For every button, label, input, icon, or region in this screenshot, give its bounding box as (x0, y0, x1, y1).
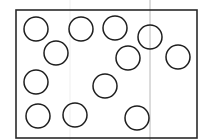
circle-12 (125, 106, 149, 130)
guide-lines (70, 0, 150, 140)
circle-6 (116, 46, 140, 70)
circles-diagram (0, 0, 199, 140)
circle-11 (63, 103, 87, 127)
circle-10 (26, 104, 50, 128)
circle-group (24, 16, 190, 130)
circle-5 (44, 41, 68, 65)
circle-3 (103, 16, 127, 40)
circle-8 (24, 70, 48, 94)
circle-7 (166, 45, 190, 69)
circle-2 (69, 17, 93, 41)
circle-1 (24, 17, 48, 41)
circle-9 (93, 74, 117, 98)
